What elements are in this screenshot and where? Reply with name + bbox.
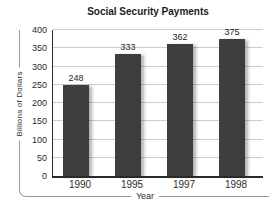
x-tick-label-1990: 1990 bbox=[69, 179, 91, 190]
bar-value-label-1998: 375 bbox=[224, 27, 239, 37]
bar-value-label-1997: 362 bbox=[172, 32, 187, 42]
y-tick-label-150: 150 bbox=[32, 116, 47, 126]
y-tick-label-50: 50 bbox=[37, 153, 47, 163]
bar-value-label-1995: 333 bbox=[120, 42, 135, 52]
plot-area: 248333362375 bbox=[52, 30, 263, 178]
y-axis-tick-labels: 050100150200250300350400 bbox=[0, 30, 47, 176]
y-tick-label-350: 350 bbox=[32, 43, 47, 53]
chart-title: Social Security Payments bbox=[87, 6, 209, 17]
bar-value-label-1990: 248 bbox=[68, 73, 83, 83]
y-tick-label-100: 100 bbox=[32, 135, 47, 145]
bar-1997 bbox=[167, 44, 193, 176]
y-tick-label-250: 250 bbox=[32, 80, 47, 90]
bar-1995 bbox=[115, 54, 141, 176]
y-tick-label-200: 200 bbox=[32, 98, 47, 108]
y-tick-label-0: 0 bbox=[42, 171, 47, 181]
bar-1998 bbox=[219, 39, 245, 176]
y-tick-label-400: 400 bbox=[32, 25, 47, 35]
x-tick-label-1997: 1997 bbox=[173, 179, 195, 190]
y-tick-label-300: 300 bbox=[32, 62, 47, 72]
bar-chart-figure: Social Security Payments Billions of Dol… bbox=[0, 0, 273, 212]
x-axis-caption: Year bbox=[131, 191, 159, 201]
x-tick-label-1995: 1995 bbox=[121, 179, 143, 190]
x-tick-label-1998: 1998 bbox=[225, 179, 247, 190]
x-axis-tick-labels: 1990199519971998 bbox=[52, 179, 262, 192]
bar-1990 bbox=[63, 85, 89, 176]
